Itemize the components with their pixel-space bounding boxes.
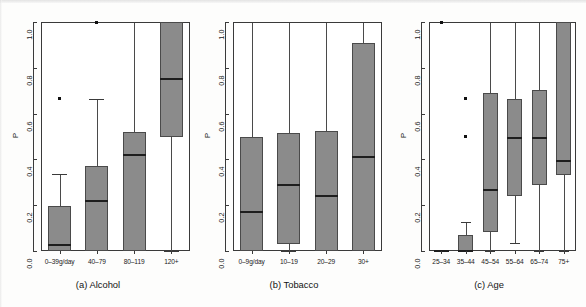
y-tick-label: 1.0 (413, 22, 422, 48)
boxplot-box (556, 22, 571, 175)
whisker-lower (515, 196, 516, 243)
y-tick-label: 0.4 (217, 159, 226, 185)
outlier-point (464, 97, 467, 100)
x-tick-mark (363, 251, 364, 254)
y-tick-label: 0.8 (413, 67, 422, 93)
whisker-cap-upper (244, 22, 259, 23)
whisker-upper (134, 22, 135, 132)
x-tick-mark (515, 251, 516, 254)
y-tick-label: 0.2 (217, 205, 226, 231)
x-tick-mark (564, 251, 565, 254)
y-tick-mark (33, 68, 37, 69)
boxplot-box (352, 43, 375, 251)
median-line (85, 200, 108, 202)
y-tick-mark (421, 251, 425, 252)
y-tick-mark (33, 251, 37, 252)
whisker-cap-upper (510, 22, 520, 23)
whisker-cap-upper (127, 22, 142, 23)
median-line (507, 137, 522, 139)
whisker-upper (490, 22, 491, 93)
median-line (352, 156, 375, 158)
whisker-lower (289, 244, 290, 251)
median-line (240, 211, 263, 213)
boxplot-box (458, 235, 473, 251)
y-tick-mark (33, 205, 37, 206)
whisker-upper (539, 22, 540, 90)
plot-frame (429, 22, 576, 251)
y-tick-label: 0.2 (413, 205, 422, 231)
y-tick-label: 0.6 (413, 113, 422, 139)
x-tick-mark (466, 251, 467, 254)
boxplot-box (85, 166, 108, 251)
whisker-cap-upper (52, 174, 67, 175)
panel-caption: (b) Tobacco (196, 279, 392, 290)
y-tick-mark (225, 68, 229, 69)
y-tick-mark (421, 114, 425, 115)
whisker-upper (97, 99, 98, 167)
y-axis-title: P (11, 125, 20, 145)
y-tick-mark (225, 251, 229, 252)
x-tick-label: 30+ (338, 258, 389, 265)
whisker-cap-upper (319, 22, 334, 23)
y-tick-mark (421, 159, 425, 160)
y-tick-label: 0.4 (413, 159, 422, 185)
median-line (160, 78, 183, 80)
y-axis-title: P (203, 125, 212, 145)
boxplot-box (507, 99, 522, 196)
boxplot-box (240, 137, 263, 252)
panel-alcohol: 0.00.20.40.60.81.0P0–39g/day40–7980–1191… (0, 0, 196, 307)
whisker-upper (515, 22, 516, 99)
x-tick-mark (171, 251, 172, 254)
y-tick-mark (225, 22, 229, 23)
median-line (532, 137, 547, 139)
y-axis-title: P (399, 125, 408, 145)
boxplot-box (483, 93, 498, 232)
x-tick-label: 75+ (545, 258, 584, 265)
y-tick-label: 0.6 (25, 113, 34, 139)
whisker-cap-lower (510, 243, 520, 244)
outlier-point (440, 21, 443, 24)
whisker-cap-upper (485, 22, 495, 23)
median-line (556, 160, 571, 162)
y-tick-label: 0.0 (217, 251, 226, 277)
boxplot-figure: 0.00.20.40.60.81.0P0–39g/day40–7980–1191… (0, 0, 586, 307)
boxplot-box (123, 132, 146, 251)
whisker-upper (60, 174, 61, 206)
y-tick-mark (33, 114, 37, 115)
whisker-cap-upper (356, 22, 371, 23)
x-tick-mark (97, 251, 98, 254)
outlier-point (95, 21, 98, 24)
whisker-cap-upper (89, 99, 104, 100)
whisker-upper (289, 22, 290, 133)
x-tick-mark (252, 251, 253, 254)
x-tick-mark (490, 251, 491, 254)
median-line (48, 244, 71, 246)
y-tick-label: 0.4 (25, 159, 34, 185)
y-tick-mark (225, 205, 229, 206)
x-tick-mark (289, 251, 290, 254)
x-tick-mark (539, 251, 540, 254)
boxplot-box (277, 133, 300, 244)
y-tick-label: 0.8 (217, 67, 226, 93)
x-tick-mark (60, 251, 61, 254)
x-tick-mark (326, 251, 327, 254)
y-tick-mark (33, 159, 37, 160)
median-line (483, 189, 498, 191)
whisker-lower (490, 232, 491, 251)
y-tick-label: 0.2 (25, 205, 34, 231)
y-tick-mark (225, 159, 229, 160)
y-tick-label: 0.0 (25, 251, 34, 277)
x-tick-label: 120+ (146, 258, 197, 265)
outlier-point (58, 97, 61, 100)
y-tick-label: 1.0 (217, 22, 226, 48)
panel-caption: (c) Age (392, 279, 586, 290)
whisker-upper (363, 22, 364, 43)
y-tick-label: 0.0 (413, 251, 422, 277)
median-line (277, 184, 300, 186)
whisker-cap-upper (461, 222, 471, 223)
whisker-upper (252, 22, 253, 137)
x-tick-mark (134, 251, 135, 254)
whisker-cap-upper (534, 22, 544, 23)
y-tick-mark (33, 22, 37, 23)
panel-age: 0.00.20.40.60.81.0P25–3435–4445–5455–646… (392, 0, 586, 307)
